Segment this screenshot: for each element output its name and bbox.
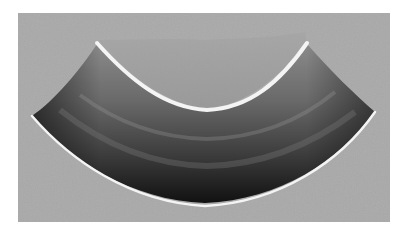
- pipe-elbow-photo: [0, 0, 409, 234]
- photo-canvas: [0, 0, 409, 234]
